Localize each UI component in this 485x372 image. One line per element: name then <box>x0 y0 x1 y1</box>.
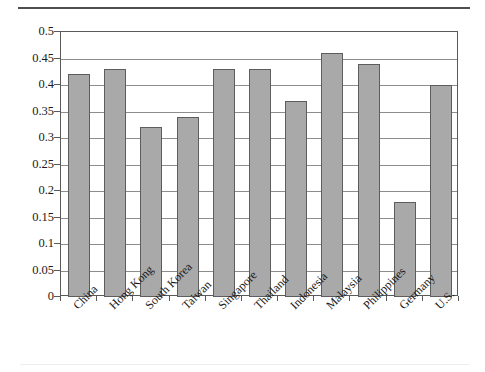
y-axis-tick-label: 0.25 <box>32 158 54 171</box>
bar <box>430 85 452 297</box>
x-axis-tick-mark <box>386 296 387 301</box>
x-axis-tick-mark <box>132 296 133 301</box>
y-axis-tick-mark <box>54 243 60 244</box>
x-axis-tick-mark <box>60 296 61 301</box>
x-axis-tick-mark <box>313 296 314 301</box>
y-axis-tick-mark <box>54 270 60 271</box>
y-axis-tick-label: 0.4 <box>38 78 54 91</box>
y-axis-tick-mark <box>54 190 60 191</box>
top-divider-rule <box>18 7 470 9</box>
x-axis-tick-mark <box>241 296 242 301</box>
y-axis-tick-label: 0.3 <box>38 131 54 144</box>
bar <box>321 53 343 297</box>
chart-figure: 00.050.10.150.20.250.30.350.40.450.5 Chi… <box>0 0 485 372</box>
x-axis-tick-mark <box>96 296 97 301</box>
y-axis-tick-label: 0.2 <box>38 184 54 197</box>
bar <box>104 69 126 297</box>
y-axis-tick-mark <box>54 111 60 112</box>
y-axis-tick-mark <box>54 31 60 32</box>
bar <box>249 69 271 297</box>
x-axis-tick-mark <box>205 296 206 301</box>
y-axis-tick-label: 0.45 <box>32 52 54 65</box>
y-axis-tick-mark <box>54 84 60 85</box>
y-axis-tick-mark <box>54 164 60 165</box>
bar <box>68 74 90 297</box>
plot-area <box>60 31 458 296</box>
y-axis-tick-mark <box>54 58 60 59</box>
bar <box>285 101 307 297</box>
y-axis-tick-label: 0.1 <box>38 237 54 250</box>
y-axis-tick-mark <box>54 217 60 218</box>
y-axis-tick-label: 0.05 <box>32 264 54 277</box>
x-axis-tick-mark <box>169 296 170 301</box>
y-axis-tick-mark <box>54 137 60 138</box>
x-axis-tick-mark <box>349 296 350 301</box>
gridline <box>61 59 457 60</box>
x-axis-tick-mark <box>422 296 423 301</box>
y-axis-tick-label: 0.5 <box>38 25 54 38</box>
bar <box>213 69 235 297</box>
y-axis-tick-labels: 00.050.10.150.20.250.30.350.40.450.5 <box>0 0 54 372</box>
y-axis-tick-label: 0.35 <box>32 105 54 118</box>
x-axis-tick-mark <box>458 296 459 301</box>
bottom-divider-rule <box>20 364 470 365</box>
y-axis-tick-label: 0.15 <box>32 211 54 224</box>
bar <box>358 64 380 297</box>
x-axis-tick-mark <box>277 296 278 301</box>
